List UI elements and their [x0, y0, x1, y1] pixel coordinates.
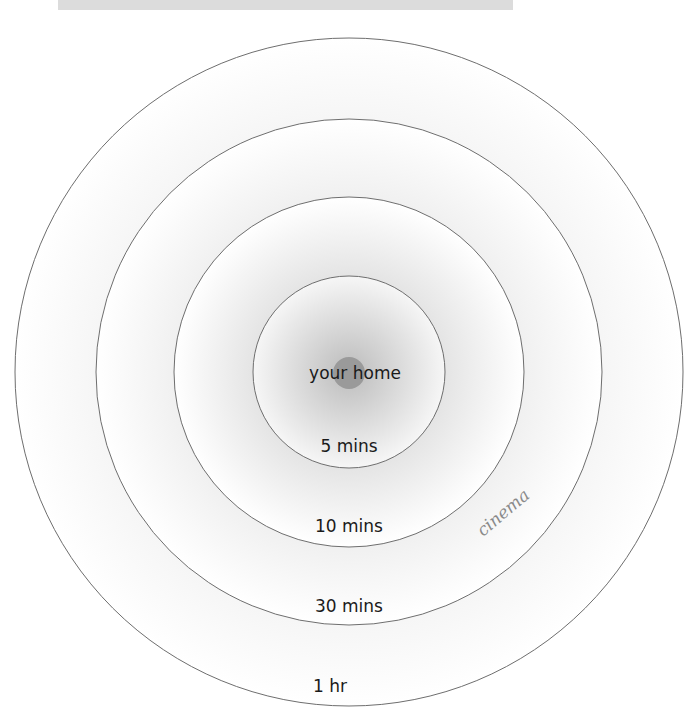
travel-time-diagram: your home 5 mins 10 mins 30 mins 1 hr ci… — [0, 0, 690, 725]
ring-label-1hr: 1 hr — [313, 676, 347, 696]
home-label: your home — [309, 363, 401, 383]
ring-label-30mins: 30 mins — [315, 596, 383, 616]
ring-label-10mins: 10 mins — [315, 516, 383, 536]
ring-label-5mins: 5 mins — [320, 436, 377, 456]
